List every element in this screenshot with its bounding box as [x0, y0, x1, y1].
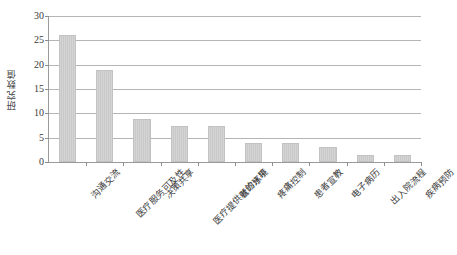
y-axis-tick-label: 0: [39, 157, 44, 167]
y-axis-tick-mark: [45, 16, 49, 17]
bar: [319, 147, 336, 162]
y-axis-tick-mark: [45, 162, 49, 163]
x-axis-category-label: 沟通交流: [89, 168, 122, 201]
y-axis-tick-label: 20: [34, 60, 44, 70]
x-axis-tick-mark: [421, 162, 422, 166]
x-axis-category-labels: 沟通交流医疗服务可及性决策共享医疗提供者的水平就诊环境疼痛控制患者宣教电子病历出…: [48, 164, 420, 254]
bar: [357, 155, 374, 162]
bars-group: [49, 16, 421, 162]
bar: [245, 143, 262, 162]
y-axis-tick-labels: 051015202530: [20, 16, 44, 162]
y-axis-tick-label: 25: [34, 35, 44, 45]
bar: [208, 126, 225, 163]
y-axis-tick-label: 15: [34, 84, 44, 94]
y-axis-tick-mark: [45, 65, 49, 66]
y-axis-tick-label: 30: [34, 11, 44, 21]
y-axis-tick-mark: [45, 113, 49, 114]
bar: [96, 70, 113, 162]
x-axis-category-label: 出入院流程: [390, 168, 429, 207]
y-axis-tick-mark: [45, 40, 49, 41]
x-axis-category-label: 电子病历: [350, 168, 383, 201]
x-axis-category-label: 就诊环境: [238, 168, 271, 201]
bar: [59, 35, 76, 162]
bar: [171, 126, 188, 163]
y-axis-tick-mark: [45, 138, 49, 139]
y-axis-tick-label: 5: [39, 133, 44, 143]
bar: [282, 143, 299, 162]
y-axis-tick-mark: [45, 89, 49, 90]
y-axis-tick-label: 10: [34, 108, 44, 118]
x-axis-category-label: 疼痛控制: [275, 168, 308, 201]
x-axis-category-label: 疾病预防: [424, 168, 457, 201]
bar: [133, 119, 150, 162]
x-axis-category-label: 患者宣教: [313, 168, 346, 201]
plot-area: [48, 16, 421, 163]
bar: [394, 155, 411, 162]
y-axis-title: 研究数值: [2, 14, 22, 164]
